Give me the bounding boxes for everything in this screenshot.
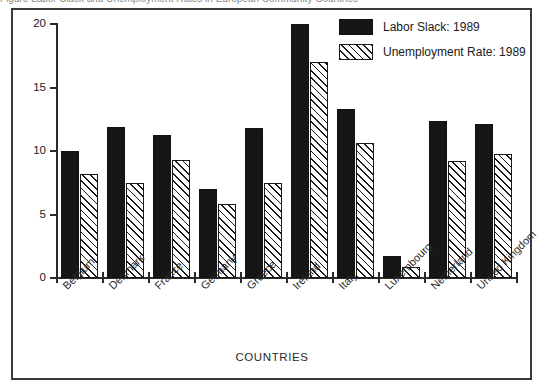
bar <box>107 127 125 278</box>
bar <box>153 135 171 279</box>
x-axis-title: COUNTRIES <box>0 351 544 363</box>
legend-swatch-hatch-icon <box>339 44 373 60</box>
y-axis-tick-label: 20 <box>24 18 46 30</box>
legend-item-unemployment-rate: Unemployment Rate: 1989 <box>339 41 526 63</box>
legend-label-unemployment-rate: Unemployment Rate: 1989 <box>383 46 526 58</box>
bar <box>475 124 493 278</box>
bar <box>337 109 355 278</box>
y-axis-tick-label: 0 <box>24 272 46 284</box>
bar <box>310 62 328 278</box>
bar <box>245 128 263 278</box>
bar <box>199 189 217 278</box>
bar <box>429 121 447 278</box>
y-axis-tick-label: 10 <box>24 145 46 157</box>
legend-label-labor-slack: Labor Slack: 1989 <box>383 21 480 33</box>
chart-legend: Labor Slack: 1989 Unemployment Rate: 198… <box>339 16 526 66</box>
legend-swatch-solid-icon <box>339 19 373 35</box>
y-axis-tick-label: 15 <box>24 82 46 94</box>
bar <box>356 143 374 278</box>
legend-item-labor-slack: Labor Slack: 1989 <box>339 16 526 38</box>
y-axis-tick-label: 5 <box>24 209 46 221</box>
bar <box>61 151 79 278</box>
bar <box>291 24 309 278</box>
x-axis-tick <box>516 272 518 283</box>
